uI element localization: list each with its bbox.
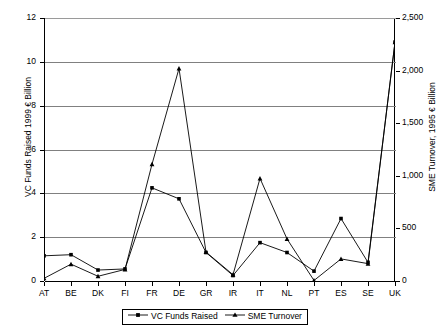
y-axis-right-tick-label: 0	[402, 275, 442, 285]
y-axis-left-tick-mark	[40, 237, 44, 238]
x-axis-tick-mark	[395, 282, 396, 286]
triangle-marker-icon	[225, 311, 245, 322]
data-point-marker	[285, 251, 289, 255]
y-axis-left-tick-label: 2	[2, 231, 36, 241]
x-axis-tick-mark	[125, 282, 126, 286]
data-point-marker	[150, 162, 155, 166]
y-axis-right-tick-mark	[396, 228, 400, 229]
data-point-marker	[339, 257, 344, 261]
legend-item-label: SME Turnover	[248, 311, 302, 322]
y-axis-right-tick-mark	[396, 71, 400, 72]
series-line	[44, 42, 395, 280]
x-axis-tick-mark	[260, 282, 261, 286]
y-axis-left-tick-mark	[40, 193, 44, 194]
y-axis-left-tick-mark	[40, 18, 44, 19]
legend-item-label: VC Funds Raised	[151, 311, 218, 322]
y-axis-right-tick-mark	[396, 281, 400, 282]
x-axis-tick-mark	[71, 282, 72, 286]
data-point-marker	[339, 217, 343, 221]
data-point-marker	[258, 176, 263, 180]
x-axis-tick-mark	[287, 282, 288, 286]
data-point-marker	[258, 241, 262, 245]
y-axis-right-tick-mark	[396, 123, 400, 124]
x-axis-tick-mark	[152, 282, 153, 286]
y-axis-left-tick-label: 4	[2, 187, 36, 197]
data-point-marker	[150, 186, 154, 190]
y-axis-right-tick-label: 2,000	[402, 65, 442, 75]
y-axis-left-tick-label: 0	[2, 275, 36, 285]
y-axis-left-tick-label: 6	[2, 144, 36, 154]
y-axis-right-tick-label: 1,500	[402, 117, 442, 127]
series-layer	[44, 18, 395, 281]
y-axis-left-tick-mark	[40, 62, 44, 63]
x-axis-tick-mark	[44, 282, 45, 286]
series-line	[44, 42, 395, 275]
y-axis-right-tick-label: 2,500	[402, 12, 442, 22]
data-point-marker	[285, 237, 290, 241]
data-point-marker	[69, 262, 74, 266]
data-point-marker	[312, 269, 316, 273]
x-axis-tick-mark	[368, 282, 369, 286]
chart-container: VC Funds Raised 1999 € Billion SME Turno…	[0, 0, 444, 331]
data-point-marker	[177, 66, 182, 70]
y-axis-right-tick-label: 1,000	[402, 170, 442, 180]
data-point-marker	[44, 254, 46, 258]
y-axis-left-tick-label: 10	[2, 56, 36, 66]
y-axis-left-tick-label: 8	[2, 100, 36, 110]
square-marker-icon	[128, 311, 148, 322]
legend-item: SME Turnover	[225, 311, 302, 322]
x-axis-tick-mark	[206, 282, 207, 286]
data-point-marker	[69, 253, 73, 257]
y-axis-right-title: SME Turnover, 1995 € Billion	[427, 57, 437, 217]
x-axis-tick-mark	[314, 282, 315, 286]
y-axis-left-tick-mark	[40, 106, 44, 107]
data-point-marker	[96, 268, 100, 272]
x-axis-tick-label: UK	[375, 288, 415, 298]
y-axis-right-tick-label: 500	[402, 222, 442, 232]
data-point-marker	[177, 197, 181, 201]
x-axis-tick-mark	[233, 282, 234, 286]
chart-legend: VC Funds RaisedSME Turnover	[122, 309, 308, 325]
y-axis-left-tick-label: 12	[2, 12, 36, 22]
x-axis-tick-mark	[341, 282, 342, 286]
x-axis-tick-mark	[179, 282, 180, 286]
y-axis-right-tick-mark	[396, 176, 400, 177]
x-axis-tick-mark	[98, 282, 99, 286]
y-axis-left-tick-mark	[40, 150, 44, 151]
y-axis-right-tick-mark	[396, 18, 400, 19]
legend-item: VC Funds Raised	[128, 311, 218, 322]
